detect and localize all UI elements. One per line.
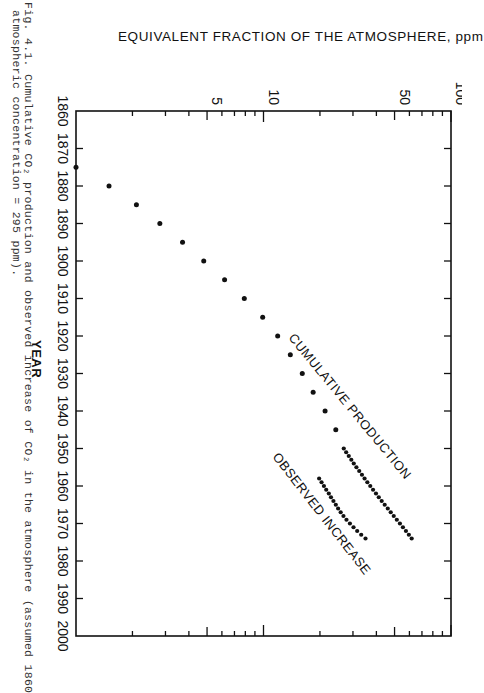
cumulative-point: [157, 221, 162, 226]
cumulative-point: [368, 484, 372, 488]
observed-point: [319, 480, 323, 484]
cumulative-point: [410, 536, 414, 540]
cumulative-point: [344, 450, 348, 454]
ppm-axis-ticks: 51050100: [132, 82, 462, 636]
ppm-tick-label: 100: [453, 82, 462, 106]
cumulative-point: [401, 525, 405, 529]
year-tick-label: 1930: [55, 358, 71, 389]
year-tick-label: 1980: [55, 545, 71, 576]
ppm-tick-label: 50: [397, 89, 413, 105]
year-tick-label: 1990: [55, 583, 71, 614]
cumulative-point: [371, 488, 375, 492]
cumulative-point: [374, 491, 378, 495]
cumulative-point: [222, 277, 227, 282]
cumulative-point: [180, 240, 185, 245]
year-tick-label: 1900: [55, 245, 71, 276]
cumulative-point: [365, 480, 369, 484]
observed-point: [341, 514, 345, 518]
observed-point: [327, 491, 331, 495]
observed-point: [344, 518, 348, 522]
cumulative-point: [392, 514, 396, 518]
observed-point: [317, 476, 321, 480]
cumulative-point: [352, 461, 356, 465]
cumulative-point: [323, 409, 328, 414]
cumulative-point: [395, 518, 399, 522]
cumulative-point: [386, 506, 390, 510]
cumulative-point: [362, 476, 366, 480]
year-tick-label: 1970: [55, 508, 71, 539]
cumulative-point: [357, 469, 361, 473]
year-tick-label: 1880: [55, 170, 71, 201]
cumulative-point: [404, 529, 408, 533]
year-tick-label: 1910: [55, 283, 71, 314]
cumulative-point: [349, 458, 353, 462]
observed-point: [329, 495, 333, 499]
cumulative-point: [377, 495, 381, 499]
plot-frame: [76, 111, 451, 636]
cumulative-point: [383, 503, 387, 507]
year-tick-label: 1920: [55, 320, 71, 351]
observed-increase-label: OBSERVED INCREASE: [270, 450, 375, 578]
cumulative-point: [74, 165, 79, 170]
cumulative-point: [380, 499, 384, 503]
data-points: [74, 165, 414, 541]
ppm-tick-label: 5: [209, 97, 225, 105]
cumulative-point: [288, 352, 293, 357]
year-tick-label: 1890: [55, 208, 71, 239]
observed-point: [322, 484, 326, 488]
year-axis-ticks: 1860187018801890190019101920193019401950…: [55, 95, 451, 651]
cumulative-point: [201, 259, 206, 264]
cumulative-point: [260, 315, 265, 320]
cumulative-point: [347, 454, 351, 458]
observed-point: [324, 488, 328, 492]
cumulative-point: [360, 473, 364, 477]
year-tick-label: 1860: [55, 95, 71, 126]
cumulative-point: [389, 510, 393, 514]
observed-point: [336, 506, 340, 510]
cumulative-point: [407, 533, 411, 537]
observed-point: [334, 503, 338, 507]
observed-point: [363, 536, 367, 540]
cumulative-point: [333, 427, 338, 432]
observed-point: [351, 525, 355, 529]
observed-point: [355, 529, 359, 533]
observed-point: [359, 533, 363, 537]
year-tick-label: 1960: [55, 470, 71, 501]
cumulative-point: [300, 371, 305, 376]
observed-point: [348, 521, 352, 525]
observed-point: [339, 510, 343, 514]
ppm-tick-label: 10: [266, 89, 282, 105]
cumulative-point: [134, 202, 139, 207]
observed-point: [331, 499, 335, 503]
cumulative-point: [107, 184, 112, 189]
cumulative-point: [342, 446, 346, 450]
cumulative-point: [398, 521, 402, 525]
year-tick-label: 2000: [55, 620, 71, 651]
cumulative-point: [311, 390, 316, 395]
cumulative-point: [242, 296, 247, 301]
year-tick-label: 1870: [55, 133, 71, 164]
year-tick-label: 1940: [55, 395, 71, 426]
plot-border: [76, 111, 451, 636]
cumulative-point: [275, 334, 280, 339]
series-labels: CUMULATIVE PRODUCTIONOBSERVED INCREASE: [270, 330, 415, 577]
year-tick-label: 1950: [55, 433, 71, 464]
cumulative-point: [354, 465, 358, 469]
